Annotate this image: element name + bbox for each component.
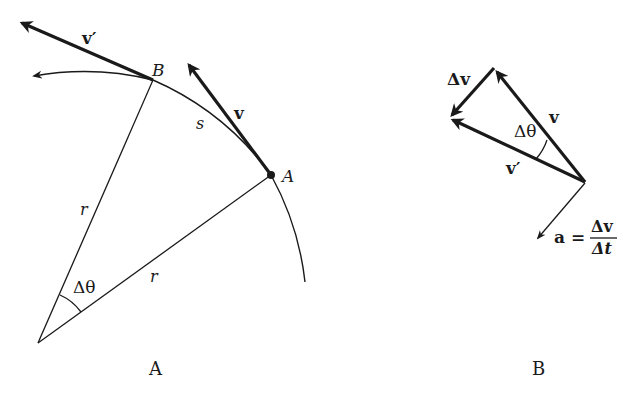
formula-denominator: Δt — [591, 239, 612, 258]
label-radius-r-1: r — [80, 200, 89, 219]
label-v-prime-b: v′ — [505, 158, 521, 178]
formula-lhs: a = — [554, 227, 585, 247]
label-point-b: B — [151, 60, 165, 80]
panel-a-caption: A — [148, 358, 163, 379]
angle-arc-b — [536, 140, 547, 159]
label-v-prime: v′ — [81, 28, 97, 48]
panel-a: v′ v B A s r r Δθ A — [22, 23, 305, 379]
angle-arc — [60, 295, 81, 312]
label-v-b: v — [548, 107, 560, 127]
label-delta-v: Δv — [447, 69, 471, 89]
radius-line-to-b — [38, 80, 153, 343]
point-a-dot — [267, 171, 275, 179]
label-delta-theta: Δθ — [73, 277, 96, 297]
acceleration-formula: a = Δv Δt — [554, 217, 617, 258]
formula-numerator: Δv — [591, 217, 613, 236]
radius-line-to-a — [38, 175, 271, 343]
panel-b: Δv v Δθ v′ a = Δv Δt B — [447, 68, 617, 379]
label-point-a: A — [280, 166, 294, 186]
circular-path-arc — [34, 72, 305, 282]
uniform-circular-motion-figure: v′ v B A s r r Δθ A Δv v Δθ v′ a = Δv Δt — [0, 0, 635, 396]
label-radius-r-2: r — [150, 267, 159, 286]
label-arc-length-s: s — [196, 114, 204, 133]
panel-b-caption: B — [532, 358, 545, 379]
label-delta-theta-b: Δθ — [514, 121, 537, 141]
label-v: v — [233, 103, 245, 123]
